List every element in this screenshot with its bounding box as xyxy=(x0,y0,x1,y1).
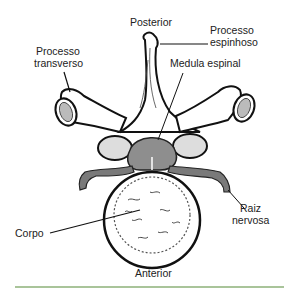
right-facet xyxy=(173,134,207,158)
label-processo-transverso-1: Processo xyxy=(36,46,80,57)
bottom-divider xyxy=(15,286,284,288)
label-processo-transverso-2: transverso xyxy=(34,58,83,69)
label-medula-espinal: Medula espinal xyxy=(170,58,241,69)
label-raiz-nervosa-2: nervosa xyxy=(232,215,269,226)
vertebra-diagram: Posterior Processo espinhoso Processo tr… xyxy=(0,0,284,293)
right-transverse-process xyxy=(176,86,241,132)
label-corpo: Corpo xyxy=(15,228,44,239)
label-posterior: Posterior xyxy=(130,17,172,28)
left-facet xyxy=(98,136,132,160)
label-anterior: Anterior xyxy=(135,268,172,279)
label-processo-espinhoso-2: espinhoso xyxy=(210,37,258,48)
label-raiz-nervosa-1: Raiz xyxy=(240,203,261,214)
label-processo-espinhoso-1: Processo xyxy=(210,25,254,36)
